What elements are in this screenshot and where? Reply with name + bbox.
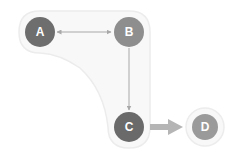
node-a[interactable]: A xyxy=(25,17,55,47)
edge-c-d xyxy=(150,119,183,135)
node-c-label: C xyxy=(125,120,134,134)
node-b[interactable]: B xyxy=(114,17,144,47)
node-b-label: B xyxy=(125,25,134,39)
node-a-label: A xyxy=(36,25,45,39)
diagram-canvas: A B C D xyxy=(0,0,237,163)
node-c[interactable]: C xyxy=(114,112,144,142)
node-d-label: D xyxy=(201,120,210,134)
node-d[interactable]: D xyxy=(192,114,218,140)
